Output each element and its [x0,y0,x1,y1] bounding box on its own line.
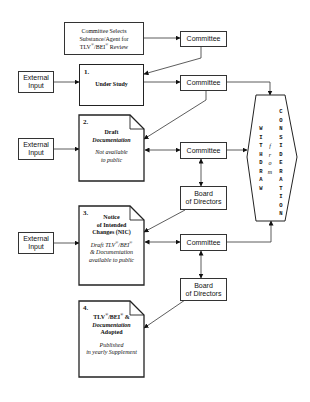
committee-box-3: Committee [180,142,227,159]
stage3-title3: Changes (NIC) [79,229,144,237]
board-of-directors-box-2: Boardof Directors [180,278,227,301]
board-of-directors-box-1: Boardof Directors [180,186,227,210]
stage4-title3: Adopted [79,329,144,337]
from-word-column: from [266,142,274,176]
stage2-note1: Not available [79,149,144,157]
stage2-title: Draft [79,129,144,137]
stage1-under-study-box: 1. Under Study [79,64,144,106]
stage2-draft-box: 2. Draft Documentation Not available to … [79,115,144,181]
external-input-box-1: ExternalInput [18,71,54,93]
external-input-box-3: ExternalInput [18,232,54,254]
consideration-word-column: CONSIDERATION [277,108,285,219]
withdraw-word-column: WITHDRAW [257,125,265,193]
stage3-number: 3. [83,210,88,218]
committee-box-2: Committee [180,75,227,91]
connector-lines [0,0,310,402]
select-substance-box: Committee Selects Substance/Agent for TL… [64,22,144,55]
stage2-title2: Documentation [79,137,144,145]
committee-box-1: Committee [180,31,227,47]
committee-box-4: Committee [180,234,227,251]
stage3-title2: of Intended [79,222,144,230]
stage4-adopted-box: 4. TLV®/BEI® & Documentation Adopted Pub… [79,301,144,377]
stage4-note2: in yearly Supplement [79,349,144,357]
top-box-line1: Committee Selects [81,27,126,35]
stage4-title2: Documentation [79,322,144,330]
stage1-title: Under Study [80,81,143,89]
stage3-nic-box: 3. Notice of Intended Changes (NIC) Draf… [79,206,144,285]
stage4-number: 4. [83,305,88,313]
stage3-title1: Notice [79,214,144,222]
stage3-note2: & Documentation [79,249,144,257]
stage4-note1: Published [79,342,144,350]
stage2-note2: to public [79,157,144,165]
stage2-number: 2. [83,119,88,127]
external-input-box-2: ExternalInput [18,138,54,160]
stage3-note3: available to public [79,257,144,265]
top-box-line2: Substance/Agent for [79,35,128,43]
stage3-note1: Draft TLV®/BEI® [79,242,144,250]
stage4-title1: TLV®/BEI® & [79,314,144,322]
stage1-number: 1. [84,69,89,77]
top-box-line3: TLV®/BEI® Review [80,43,128,51]
